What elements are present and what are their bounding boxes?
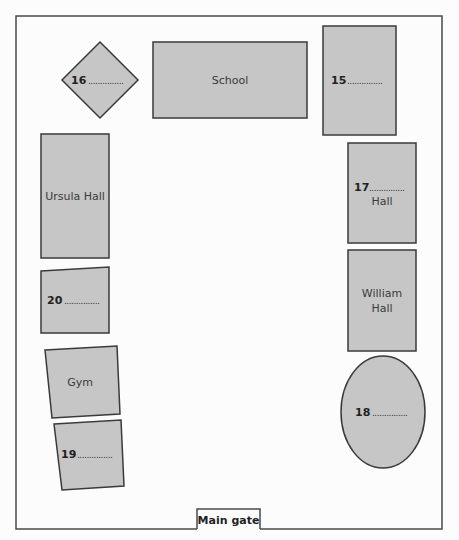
building-20: 20 ...............: [41, 267, 109, 333]
building-18-number: 18: [355, 406, 370, 419]
building-17-number: 17: [354, 181, 369, 194]
campus-map: Main gate 16 ............... School 15 .…: [0, 0, 459, 540]
building-17-blank[interactable]: ...............: [369, 183, 404, 193]
building-ursula-hall: Ursula Hall: [41, 134, 109, 258]
building-15-number: 15: [331, 74, 346, 87]
building-william-hall: William Hall: [348, 250, 416, 351]
building-16-number: 16: [71, 74, 87, 87]
building-18-blank[interactable]: ...............: [372, 408, 407, 418]
building-19-blank[interactable]: ...............: [77, 450, 112, 460]
gym-label: Gym: [67, 376, 93, 389]
william-hall-line1: William: [362, 287, 402, 300]
building-17-hall: 17 ............... Hall: [348, 143, 416, 243]
building-16-blank[interactable]: ...............: [88, 76, 123, 86]
building-20-blank[interactable]: ...............: [64, 296, 99, 306]
building-18: 18 ...............: [341, 356, 425, 468]
school-label: School: [212, 74, 249, 87]
main-gate: Main gate: [197, 509, 260, 529]
building-20-number: 20: [47, 294, 63, 307]
building-15: 15 ...............: [323, 26, 396, 135]
building-19-number: 19: [61, 448, 76, 461]
building-19: 19 ...............: [54, 420, 124, 490]
main-gate-label: Main gate: [198, 514, 260, 527]
william-hall-line2: Hall: [371, 302, 392, 315]
building-15-blank[interactable]: ...............: [347, 76, 382, 86]
building-17-suffix: Hall: [371, 195, 392, 208]
building-16: 16 ...............: [62, 42, 138, 118]
ursula-hall-label: Ursula Hall: [45, 190, 105, 203]
building-school: School: [153, 42, 307, 118]
building-gym: Gym: [45, 346, 120, 418]
